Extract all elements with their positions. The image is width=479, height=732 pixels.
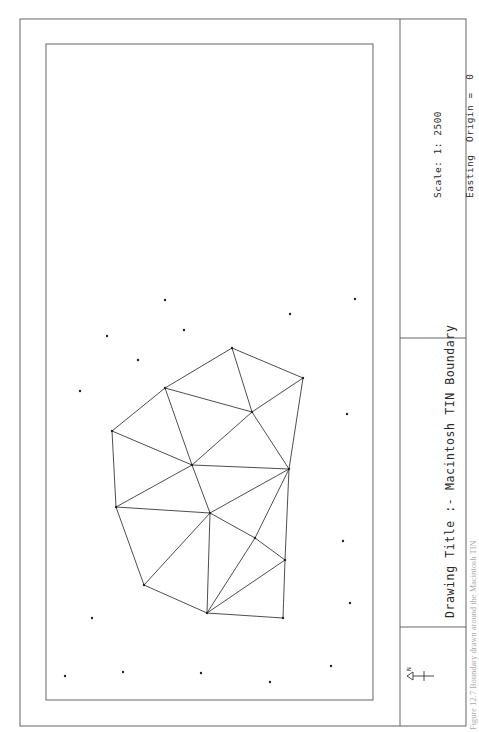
north-label: N [405, 667, 412, 671]
tin-edge [232, 348, 252, 412]
scale-line: Scale: 1: 2500 [433, 74, 443, 198]
survey-point [349, 602, 351, 604]
survey-point [342, 540, 344, 542]
tin-node [284, 559, 286, 561]
tin-node [254, 537, 256, 539]
tin-edge [210, 469, 289, 513]
survey-point [106, 335, 108, 337]
survey-point [122, 671, 124, 673]
tin-edge [165, 388, 192, 465]
drawing-title-line: Drawing Title :- Macintosh TIN Boundary [445, 325, 457, 618]
tin-edge [255, 538, 285, 560]
tin-edge [165, 348, 232, 388]
survey-points [64, 298, 356, 683]
tin-triangulation [112, 348, 303, 618]
tin-edge [255, 469, 289, 538]
survey-point [137, 359, 139, 361]
tin-node [209, 512, 211, 514]
tin-edge [207, 613, 283, 618]
tin-node [164, 387, 166, 389]
tin-edge [252, 378, 303, 412]
tin-edge [283, 560, 285, 618]
survey-point [269, 681, 271, 683]
survey-point [79, 390, 81, 392]
survey-point [346, 413, 348, 415]
tin-edge [116, 507, 144, 585]
tin-edge [192, 412, 252, 465]
tin-node [206, 612, 208, 614]
tin-node [251, 411, 253, 413]
tin-edge [116, 465, 192, 507]
tin-edge [112, 431, 116, 507]
north-arrow-icon [407, 671, 434, 681]
tin-node [288, 468, 290, 470]
survey-point [64, 675, 66, 677]
tin-edge [192, 465, 289, 469]
outer-border [20, 19, 466, 726]
survey-point [183, 329, 185, 331]
survey-point [91, 617, 93, 619]
tin-edge [232, 348, 303, 378]
tin-node [302, 377, 304, 379]
tin-node [191, 464, 193, 466]
tin-node [282, 617, 284, 619]
survey-point [164, 299, 166, 301]
survey-point [330, 665, 332, 667]
figure-caption: Figure 12.7 Boundary drawn around the Ma… [469, 540, 478, 730]
tin-node [115, 506, 117, 508]
tin-edge [112, 388, 165, 431]
tin-edge [252, 412, 289, 469]
tin-edge [207, 513, 210, 613]
tin-edge [144, 513, 210, 585]
tin-edge [165, 388, 252, 412]
tin-edge [112, 431, 192, 465]
tin-edge [192, 465, 210, 513]
tin-edge [289, 378, 303, 469]
tin-node [143, 584, 145, 586]
survey-point [200, 672, 202, 674]
tin-nodes [111, 347, 304, 619]
tin-edge [285, 469, 289, 560]
tin-node [231, 347, 233, 349]
tin-edge [144, 585, 207, 613]
tin-edge [116, 507, 210, 513]
drawing-frame [46, 44, 373, 700]
tin-node [111, 430, 113, 432]
survey-point [289, 313, 291, 315]
scale-box: Scale: 1: 2500 Easting Origin = 0 Northi… [411, 74, 479, 198]
survey-point [354, 298, 356, 300]
easting-origin-line: Easting Origin = 0 [465, 74, 475, 198]
tin-edge [207, 538, 255, 613]
tin-edge [207, 560, 285, 613]
tin-edge [210, 513, 255, 538]
